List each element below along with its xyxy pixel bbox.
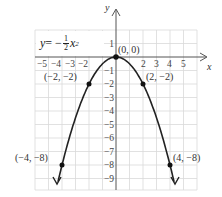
svg-text:−1: −1 [104, 66, 114, 76]
point-origin [113, 54, 119, 60]
svg-text:−2: −2 [78, 59, 88, 69]
point-pos4 [168, 163, 173, 168]
svg-text:2: 2 [141, 59, 146, 69]
point-neg2 [87, 82, 92, 87]
svg-text:−4: −4 [104, 106, 114, 116]
x-axis-label: x [206, 61, 212, 72]
svg-text:−3: −3 [65, 59, 75, 69]
parabola-graph: x y −5 −4 −3 −2 2 3 4 5 1 −1 −2 −3 −4 −5… [0, 0, 222, 197]
svg-text:−5: −5 [37, 59, 47, 69]
svg-text:1: 1 [109, 39, 114, 49]
equation-label: y = −12x2 [36, 31, 104, 56]
svg-text:3: 3 [154, 59, 159, 69]
svg-text:(−4, −8): (−4, −8) [15, 152, 48, 164]
svg-text:(0, 0): (0, 0) [118, 44, 140, 56]
svg-text:4: 4 [167, 59, 172, 69]
left-arrow-icon [53, 177, 61, 184]
svg-text:−2: −2 [104, 79, 114, 89]
svg-text:5: 5 [181, 59, 186, 69]
y-axis-label: y [104, 2, 110, 13]
svg-text:−7: −7 [104, 147, 114, 157]
svg-text:(4, −8): (4, −8) [173, 152, 200, 164]
point-pos2 [141, 82, 146, 87]
svg-text:−6: −6 [104, 133, 114, 143]
svg-text:−4: −4 [51, 59, 61, 69]
svg-text:−5: −5 [104, 120, 114, 130]
svg-text:−9: −9 [104, 174, 114, 184]
right-arrow-icon [171, 177, 179, 184]
svg-text:−3: −3 [104, 93, 114, 103]
svg-text:(2, −2): (2, −2) [146, 71, 173, 83]
svg-text:−8: −8 [104, 160, 114, 170]
svg-text:(−2, −2): (−2, −2) [44, 71, 77, 83]
point-neg4 [60, 163, 65, 168]
